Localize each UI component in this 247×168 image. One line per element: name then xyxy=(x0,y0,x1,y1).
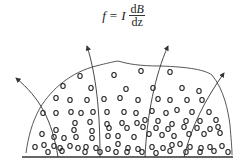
particle xyxy=(216,125,220,130)
particle xyxy=(197,89,201,94)
particle xyxy=(170,122,174,127)
particle xyxy=(156,97,160,102)
particle xyxy=(154,151,158,156)
particle xyxy=(94,146,98,151)
particle xyxy=(120,121,124,126)
particle xyxy=(116,134,120,139)
particle xyxy=(68,98,72,103)
particle xyxy=(208,145,212,150)
particle xyxy=(76,146,80,151)
particle xyxy=(212,149,216,154)
field-diagram xyxy=(0,0,247,168)
particle xyxy=(150,145,154,150)
particle xyxy=(114,150,118,155)
particle xyxy=(182,125,186,130)
particle xyxy=(42,143,46,148)
particle xyxy=(54,96,58,101)
particle xyxy=(78,74,82,79)
particle xyxy=(214,118,218,123)
particle xyxy=(106,134,110,139)
particle xyxy=(69,110,73,115)
particle xyxy=(46,150,50,155)
particle xyxy=(118,96,122,101)
particle xyxy=(84,145,88,150)
particle xyxy=(102,97,106,102)
particle xyxy=(88,120,92,125)
particle xyxy=(132,135,136,140)
particle xyxy=(178,142,182,147)
particle xyxy=(207,110,211,115)
particle xyxy=(73,121,77,126)
particle xyxy=(188,145,192,150)
particle xyxy=(172,134,176,139)
particle xyxy=(226,150,230,155)
particle xyxy=(61,84,65,89)
particle xyxy=(74,135,78,140)
particle xyxy=(68,144,72,149)
particle xyxy=(125,126,129,131)
particle xyxy=(62,136,66,141)
particle xyxy=(185,98,189,103)
particle xyxy=(105,110,109,115)
particle xyxy=(90,129,94,134)
particle xyxy=(112,73,116,78)
particle xyxy=(83,150,87,155)
particle xyxy=(79,111,83,116)
particle xyxy=(195,126,199,131)
particle xyxy=(54,111,58,116)
particle xyxy=(160,133,164,138)
particle xyxy=(202,132,206,137)
dome-outline xyxy=(26,61,232,155)
particle xyxy=(175,108,179,113)
particle xyxy=(170,143,174,148)
particle xyxy=(33,145,37,150)
particle xyxy=(124,87,128,92)
particle xyxy=(168,98,172,103)
particle xyxy=(139,69,143,74)
particle xyxy=(190,110,194,115)
particle xyxy=(143,118,147,123)
field-lines-group xyxy=(16,46,224,157)
particle xyxy=(154,126,158,131)
particle xyxy=(116,142,120,147)
particle xyxy=(90,136,94,141)
particle xyxy=(72,128,76,133)
particle xyxy=(218,131,222,136)
particle xyxy=(200,98,204,103)
particle xyxy=(147,132,151,137)
particle xyxy=(156,119,160,124)
particle xyxy=(164,111,168,116)
particle xyxy=(40,132,44,137)
particle xyxy=(168,149,172,154)
particle xyxy=(91,110,95,115)
particle xyxy=(85,98,89,103)
particle xyxy=(208,127,212,132)
particle xyxy=(166,127,170,132)
particle xyxy=(198,119,202,124)
particle xyxy=(89,86,93,91)
particle xyxy=(140,150,144,155)
particle xyxy=(150,109,154,114)
particle xyxy=(141,125,145,130)
particle xyxy=(54,128,58,133)
particle xyxy=(220,144,224,149)
particle xyxy=(135,121,139,126)
particle xyxy=(180,86,184,91)
particle xyxy=(106,147,110,152)
particle xyxy=(136,98,140,103)
particle xyxy=(168,70,172,75)
particle xyxy=(161,146,165,151)
particle xyxy=(134,111,138,116)
particle xyxy=(122,110,126,115)
particle xyxy=(184,119,188,124)
